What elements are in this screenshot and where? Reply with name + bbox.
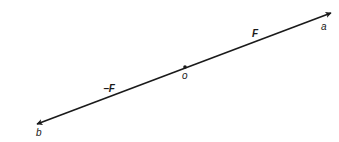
label-b: b bbox=[36, 127, 42, 138]
label-neg-force: −F bbox=[103, 83, 116, 94]
force-line bbox=[37, 13, 331, 124]
vector-diagram: a b o F −F bbox=[0, 0, 339, 142]
label-origin: o bbox=[182, 70, 188, 81]
origin-point bbox=[183, 65, 187, 69]
label-a: a bbox=[321, 21, 327, 32]
label-force: F bbox=[252, 28, 259, 39]
diagram-svg: a b o F −F bbox=[0, 0, 339, 142]
